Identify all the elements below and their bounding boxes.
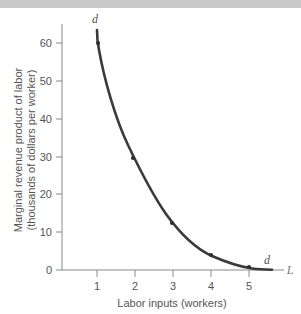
y-axis-title-line2: (thousands of dollars per worker)	[25, 70, 37, 231]
x-tick-label-2: 2	[132, 280, 138, 292]
y-tick-label-20: 20	[40, 188, 52, 200]
data-point-1	[96, 41, 100, 45]
x-tick-label-4: 4	[208, 280, 214, 292]
y-axis-tick-labels: 0 10 20 30 40 50 60	[40, 37, 52, 276]
demand-curve-d	[97, 30, 272, 270]
x-tick-label-1: 1	[94, 280, 100, 292]
x-tick-label-3: 3	[170, 280, 176, 292]
x-axis-title: Labor inputs (workers)	[117, 297, 226, 309]
data-point-2	[131, 156, 135, 160]
curve-label-d-top: d	[92, 12, 99, 26]
curve-label-d-bottom: d	[264, 253, 271, 267]
y-tick-label-0: 0	[46, 264, 52, 276]
y-tick-label-40: 40	[40, 113, 52, 125]
data-point-5	[247, 265, 251, 269]
data-point-3	[170, 221, 174, 225]
mrp-line-chart: 0 10 20 30 40 50 60 1 2 3 4 5	[0, 0, 301, 314]
y-axis-ticks	[56, 43, 62, 270]
y-tick-label-30: 30	[40, 151, 52, 163]
y-tick-label-50: 50	[40, 75, 52, 87]
x-tick-label-5: 5	[246, 280, 252, 292]
data-point-markers	[96, 41, 251, 269]
data-point-4	[209, 253, 213, 257]
x-axis-ticks	[97, 270, 249, 277]
x-axis-variable-label: L	[286, 263, 294, 277]
y-tick-label-10: 10	[40, 226, 52, 238]
y-axis-title-line1: Marginal revenue product of labor	[12, 67, 24, 232]
y-tick-label-60: 60	[40, 37, 52, 49]
chart-figure: 0 10 20 30 40 50 60 1 2 3 4 5	[0, 0, 301, 314]
x-axis-tick-labels: 1 2 3 4 5	[94, 280, 252, 292]
